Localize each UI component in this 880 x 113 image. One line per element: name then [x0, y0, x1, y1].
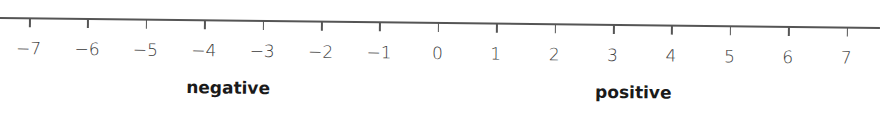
- tick-mark: [671, 26, 673, 35]
- tick-mark: [146, 20, 148, 29]
- tick-label: 3: [592, 45, 632, 65]
- tick-container: −7−6−5−4−3−2−101234567: [0, 0, 880, 10]
- tick-mark: [496, 24, 498, 33]
- tick-mark: [613, 25, 615, 34]
- tick-label: −1: [359, 42, 399, 62]
- tick-label: 0: [417, 43, 457, 63]
- tick-label: 7: [826, 47, 866, 67]
- number-line: −7−6−5−4−3−2−101234567 negative positive: [0, 0, 880, 113]
- tick-mark: [262, 21, 264, 30]
- axis-line: [0, 17, 880, 28]
- tick-label: −6: [67, 39, 107, 59]
- tick-mark: [788, 27, 790, 36]
- tick-mark: [87, 19, 89, 28]
- tick-label: −7: [9, 38, 49, 58]
- negative-label: negative: [186, 77, 270, 98]
- tick-label: 4: [651, 45, 691, 65]
- tick-mark: [379, 22, 381, 31]
- positive-label: positive: [595, 82, 672, 103]
- tick-label: −4: [184, 40, 224, 60]
- tick-mark: [846, 28, 848, 37]
- tick-label: 2: [534, 44, 574, 64]
- tick-mark: [29, 18, 31, 27]
- tick-mark: [321, 22, 323, 31]
- tick-label: −5: [125, 39, 165, 59]
- tick-mark: [438, 23, 440, 32]
- tick-mark: [730, 26, 732, 35]
- tick-label: 5: [709, 46, 749, 66]
- tick-mark: [554, 24, 556, 33]
- tick-label: 6: [768, 47, 808, 67]
- tick-mark: [204, 20, 206, 29]
- tick-label: 1: [476, 43, 516, 63]
- tick-label: −3: [242, 41, 282, 61]
- tick-label: −2: [301, 41, 341, 61]
